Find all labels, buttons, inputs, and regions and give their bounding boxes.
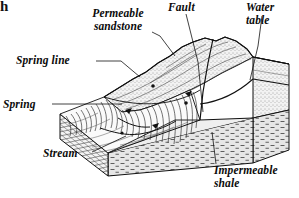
- label-impermeable-shale-line1: Impermeable: [214, 164, 278, 176]
- label-spring: Spring: [3, 98, 36, 111]
- water-table-trace: [200, 79, 253, 104]
- label-stream: Stream: [43, 147, 77, 160]
- label-permeable-sandstone-line2: sandstone: [94, 20, 142, 32]
- leader-permeable-sandstone: [152, 32, 175, 56]
- right-face-sandstone: [253, 57, 289, 118]
- spring-dot-3: [120, 131, 123, 134]
- geology-block-diagram-figure: h: [0, 0, 299, 198]
- label-water-table: Water table: [246, 1, 296, 26]
- label-water-table-line2: table: [246, 14, 270, 26]
- right-face-shale: [253, 110, 289, 163]
- label-water-table-line1: Water: [246, 1, 274, 13]
- label-fault: Fault: [168, 1, 195, 14]
- spring-dot-1: [151, 84, 155, 88]
- label-permeable-sandstone-line1: Permeable: [92, 7, 143, 19]
- label-impermeable-shale-line2: shale: [214, 177, 239, 189]
- label-impermeable-shale: Impermeable shale: [214, 164, 298, 189]
- leader-spring-line: [96, 61, 140, 77]
- spring-dot-2: [184, 101, 188, 105]
- label-permeable-sandstone: Permeable sandstone: [76, 7, 160, 32]
- label-spring-line: Spring line: [16, 54, 70, 67]
